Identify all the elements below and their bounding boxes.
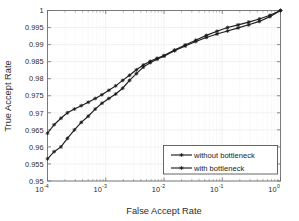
data-point-marker [93,107,97,111]
data-point-marker [79,120,83,124]
data-point-marker [183,44,187,48]
data-point-marker [52,150,56,154]
svg-text:10: 10 [210,185,218,194]
y-tick-label: 0.955 [25,160,44,169]
y-tick-label: 1 [39,6,43,15]
data-point-marker [194,40,198,44]
y-tick-label: 0.995 [25,23,44,32]
data-point-marker [46,131,50,135]
svg-text:10: 10 [268,185,276,194]
data-point-marker [128,79,132,83]
chart-canvas: 10-410-310-210-1100 0.950.9550.960.9650.… [0,0,299,221]
data-point-marker [226,26,230,30]
y-tick-label: 0.96 [29,143,43,152]
data-point-marker [128,73,132,77]
data-point-marker [135,68,139,72]
data-point-marker [268,15,272,19]
data-point-marker [162,54,166,58]
data-point-marker [121,79,125,83]
roc-chart-figure: 10-410-310-210-1100 0.950.9550.960.9650.… [0,0,299,221]
data-point-marker [100,101,104,105]
svg-text:10: 10 [35,185,43,194]
data-point-marker [66,136,70,140]
data-point-marker [100,93,104,97]
data-point-marker [155,57,159,61]
data-point-marker [73,107,77,111]
data-point-marker [46,157,50,161]
data-point-marker [215,32,219,36]
y-tick-label: 0.97 [29,109,43,118]
data-point-marker [247,23,251,27]
data-point-marker [180,153,184,157]
svg-text:-4: -4 [44,183,49,189]
data-point-marker [59,145,63,149]
data-point-marker [93,97,97,101]
legend-label: without bottleneck [193,151,255,160]
data-point-marker [204,36,208,40]
svg-text:-3: -3 [102,183,107,189]
data-point-marker [86,114,90,118]
data-point-marker [173,49,177,53]
data-point-marker [257,20,261,24]
data-point-marker [79,104,83,108]
y-tick-label: 0.975 [25,91,44,100]
data-point-marker [135,72,139,76]
data-point-marker [59,116,63,120]
data-point-marker [52,123,56,127]
data-point-marker [114,92,118,96]
data-point-marker [279,9,283,13]
data-point-marker [86,100,90,104]
y-axis-title: True Accept Rate [3,60,13,131]
data-point-marker [114,84,118,88]
svg-text:10: 10 [152,185,160,194]
svg-text:10: 10 [94,185,102,194]
data-point-marker [66,111,70,115]
y-tick-label: 0.95 [29,177,43,186]
data-point-marker [226,29,230,33]
svg-text:-2: -2 [161,183,166,189]
x-axis-title: False Accept Rate [126,206,201,216]
data-point-marker [180,166,184,170]
y-tick-label: 0.98 [29,74,43,83]
data-point-marker [107,88,111,92]
data-point-marker [141,65,145,69]
svg-text:-1: -1 [219,183,224,189]
data-point-marker [107,97,111,101]
chart-legend[interactable]: without bottleneckwith bottleneck [164,146,278,175]
y-tick-label: 0.99 [29,40,43,49]
data-point-marker [148,61,152,65]
data-point-marker [73,128,77,132]
legend-label: with bottleneck [193,164,244,173]
y-tick-label: 0.965 [25,126,44,135]
y-tick-label: 0.985 [25,57,44,66]
data-point-marker [121,86,125,90]
data-point-marker [236,26,240,30]
svg-text:0: 0 [277,183,280,189]
